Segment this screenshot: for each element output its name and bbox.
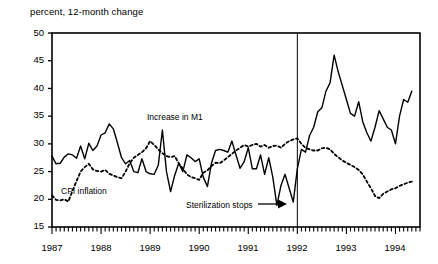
sterilization-arrow-head: [278, 200, 287, 209]
chart-plot-area: [0, 0, 438, 264]
series-line-increase-in-m1: [52, 55, 412, 205]
chart-figure: percent, 12-month change 50 45 40 35 30 …: [0, 0, 438, 264]
series-line-cpi-inflation: [52, 138, 412, 201]
plot-frame: [52, 33, 420, 227]
